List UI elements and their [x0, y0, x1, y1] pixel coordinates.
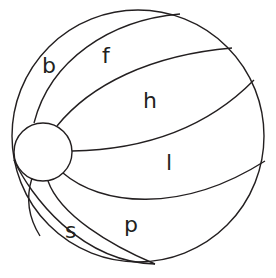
- ball-outline: [12, 10, 264, 262]
- panel-label-s: s: [65, 218, 76, 243]
- panel-label-p: p: [124, 212, 138, 237]
- panel-label-f: f: [102, 43, 111, 68]
- ball-diagram: b f h l s p: [0, 0, 276, 278]
- seam-l-p: [63, 161, 265, 199]
- seam-h-l: [72, 80, 254, 151]
- panel-label-b: b: [42, 53, 56, 78]
- panel-label-h: h: [143, 88, 157, 113]
- panel-label-l: l: [166, 150, 172, 175]
- seam-f-h: [57, 48, 232, 126]
- ball-cap: [14, 123, 72, 181]
